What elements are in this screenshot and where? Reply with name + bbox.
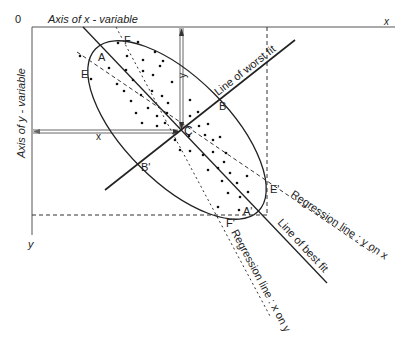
point-label-e-prime: E' <box>270 183 279 195</box>
point-label-a: A <box>98 51 106 63</box>
point-label-e: E <box>81 68 88 80</box>
origin-label: 0 <box>15 13 21 25</box>
x-axis-end-label: x <box>383 16 390 27</box>
point-label-f: F <box>124 34 131 46</box>
point-label-f-prime: F' <box>226 217 235 229</box>
x-distance-label: x <box>96 131 101 142</box>
x-axis-title: Axis of x - variable <box>47 13 138 25</box>
point-label-b: B <box>219 100 226 112</box>
y-axis-title: Axis of y - variable <box>15 68 27 159</box>
regression-x-on-y-label: Regression line : x on y <box>229 227 294 334</box>
scatter-points <box>79 41 250 212</box>
line-of-best-fit <box>83 27 327 283</box>
point-label-b-prime: B' <box>141 161 150 173</box>
y-axis-end-label: y <box>27 238 35 250</box>
y-distance-label: y <box>177 73 188 78</box>
line-of-worst-fit-label: Line of worst fit <box>212 43 278 98</box>
point-label-c: C <box>184 124 193 138</box>
point-label-a-prime: A' <box>243 205 252 217</box>
regression-diagram: 0 Axis of x - variable x y Axis of y - v… <box>0 0 415 339</box>
line-of-best-fit-label: Line of best fit <box>276 216 331 274</box>
